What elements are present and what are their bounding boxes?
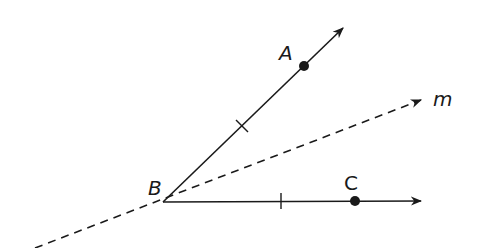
point-a <box>299 61 309 71</box>
ray-ba <box>163 28 343 202</box>
label-b: B <box>148 176 162 200</box>
label-a: A <box>277 41 293 65</box>
label-m: m <box>433 87 452 111</box>
ray-bc <box>163 201 421 202</box>
line-m <box>35 100 421 248</box>
point-c <box>350 196 360 206</box>
geometry-diagram: A B C m <box>0 0 477 248</box>
diagram-svg: A B C m <box>0 0 477 248</box>
label-c: C <box>344 171 358 195</box>
